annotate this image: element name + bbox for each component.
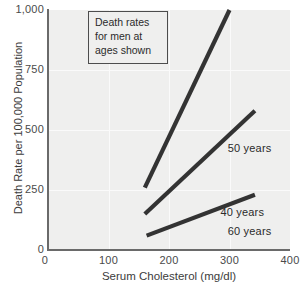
x-tick-label: 0: [42, 254, 48, 266]
y-axis-line: [47, 9, 49, 251]
series-label-60-years: 60 years: [228, 225, 272, 237]
annotation-box: Death rates for men at ages shown: [88, 11, 168, 64]
annotation-line: for men at: [95, 30, 161, 44]
gridline-vertical: [169, 10, 170, 250]
series-label-50-years: 50 years: [228, 142, 272, 154]
y-tick-label: 250: [25, 183, 44, 195]
annotation-line: Death rates: [95, 16, 161, 30]
y-axis-title: Death Rate per 100,000 Population: [12, 13, 24, 243]
x-tick-label: 300: [220, 254, 239, 266]
x-axis-line: [47, 249, 290, 251]
annotation-line: ages shown: [95, 44, 161, 58]
x-axis-title: Serum Cholesterol (mg/dl): [48, 270, 290, 282]
series-label-40-years: 40 years: [220, 206, 264, 218]
x-tick-label: 400: [281, 254, 300, 266]
x-tick-label: 100: [99, 254, 118, 266]
y-tick-label: 500: [25, 123, 44, 135]
x-tick-label: 200: [160, 254, 179, 266]
chart-figure: 1,000 750 500 250 0 0 100 200 300 400 De…: [0, 0, 307, 293]
y-tick-label: 750: [25, 63, 44, 75]
